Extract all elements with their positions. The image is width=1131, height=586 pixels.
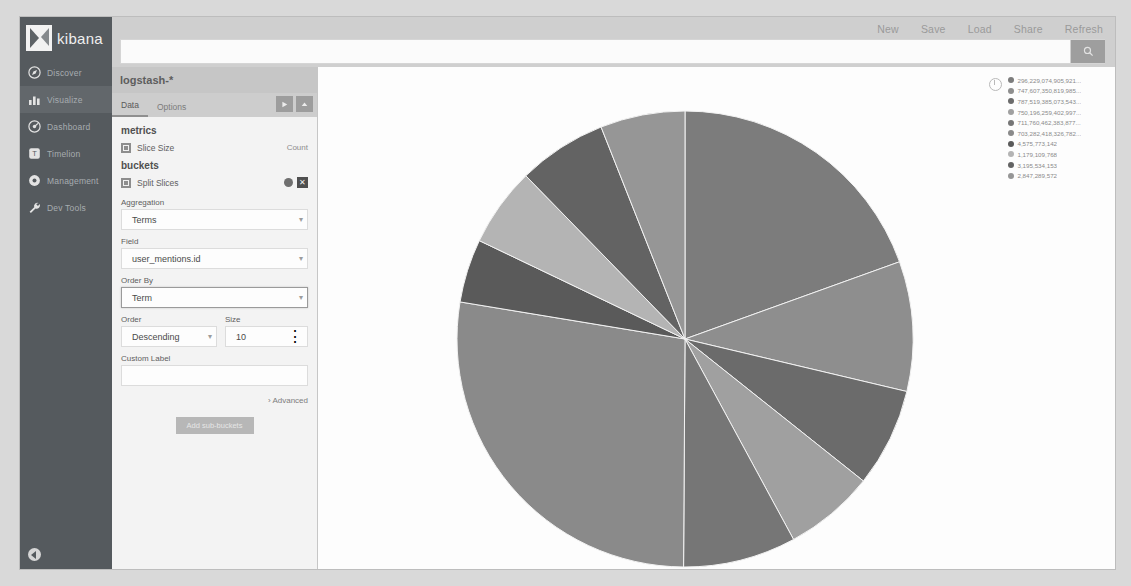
size-input[interactable] <box>234 331 287 343</box>
legend-item[interactable]: 2,847,289,572 <box>1008 170 1081 181</box>
field-value: user_mentions.id <box>132 254 299 264</box>
chevron-down-icon: ▾ <box>299 293 303 302</box>
order-by-value: Term <box>132 293 299 303</box>
share-button[interactable]: Share <box>1014 23 1043 35</box>
close-icon[interactable]: ✕ <box>297 177 308 188</box>
sidebar: kibana DiscoverVisualizeDashboardTTimeli… <box>20 17 112 569</box>
legend-item[interactable]: 750,196,259,402,997... <box>1008 107 1081 118</box>
custom-label-field[interactable] <box>121 365 308 386</box>
size-stepper[interactable]: ⋮ <box>225 326 308 347</box>
sidebar-item-label: Management <box>47 176 99 186</box>
legend-item[interactable]: 711,760,462,383,877... <box>1008 117 1081 128</box>
compass-icon <box>28 66 41 79</box>
index-pattern-header: logstash-* <box>112 67 317 93</box>
sidebar-collapse-button[interactable] <box>28 548 41 561</box>
bucket-split-slices-row[interactable]: Split Slices ✕ <box>121 174 308 191</box>
kibana-app: NewSaveLoadShareRefresh kibana DiscoverV… <box>20 17 1115 569</box>
sidebar-item-visualize[interactable]: Visualize <box>20 86 112 113</box>
chevron-down-icon: ▾ <box>299 254 303 263</box>
legend-label: 4,575,773,142 <box>1017 140 1057 147</box>
collapse-editor-button[interactable] <box>296 96 313 112</box>
apply-changes-button[interactable] <box>276 96 293 112</box>
legend-label: 2,847,289,572 <box>1017 172 1057 179</box>
custom-label-label: Custom Label <box>121 354 308 363</box>
sidebar-item-timelion[interactable]: TTimelion <box>20 140 112 167</box>
top-nav: NewSaveLoadShareRefresh <box>877 23 1103 35</box>
index-pattern-label: logstash-* <box>120 74 173 86</box>
legend-label: 296,229,074,905,921... <box>1017 77 1081 84</box>
legend-items: 296,229,074,905,921...747,607,350,819,98… <box>1008 75 1081 181</box>
stepper-icon: ⋮ <box>287 327 303 346</box>
eye-icon[interactable] <box>284 178 293 187</box>
chart-legend: 296,229,074,905,921...747,607,350,819,98… <box>989 75 1109 181</box>
metric-label: Slice Size <box>137 143 287 153</box>
refresh-button[interactable]: Refresh <box>1065 23 1103 35</box>
legend-label: 787,519,385,073,543... <box>1017 98 1081 105</box>
legend-item[interactable]: 747,607,350,819,985... <box>1008 86 1081 97</box>
add-sub-buckets-button[interactable]: Add sub-buckets <box>176 417 254 434</box>
chevron-down-icon: ▾ <box>208 332 212 341</box>
sidebar-item-discover[interactable]: Discover <box>20 59 112 86</box>
aggregation-value: Terms <box>132 215 299 225</box>
wrench-icon <box>28 201 41 214</box>
legend-item[interactable]: 3,195,534,153 <box>1008 160 1081 171</box>
save-button[interactable]: Save <box>921 23 946 35</box>
load-button[interactable]: Load <box>968 23 992 35</box>
legend-color-swatch <box>1008 151 1014 157</box>
legend-item[interactable]: 787,519,385,073,543... <box>1008 96 1081 107</box>
order-by-select[interactable]: Term ▾ <box>121 287 308 308</box>
legend-label: 747,607,350,819,985... <box>1017 87 1081 94</box>
sidebar-item-label: Dev Tools <box>47 203 86 213</box>
sidebar-item-dashboard[interactable]: Dashboard <box>20 113 112 140</box>
legend-item[interactable]: 296,229,074,905,921... <box>1008 75 1081 86</box>
legend-color-swatch <box>1008 141 1014 147</box>
order-by-label: Order By <box>121 276 308 285</box>
legend-item[interactable]: 4,575,773,142 <box>1008 139 1081 150</box>
bucket-toggle-icon <box>121 178 131 188</box>
legend-color-swatch <box>1008 77 1014 83</box>
bar-chart-icon <box>28 93 41 106</box>
query-bar[interactable] <box>120 39 1105 64</box>
legend-item[interactable]: 703,282,418,326,782... <box>1008 128 1081 139</box>
aggregation-label: Aggregation <box>121 198 308 207</box>
legend-label: 711,760,462,383,877... <box>1017 119 1080 126</box>
advanced-label: Advanced <box>272 396 308 405</box>
legend-label: 1,179,109,768 <box>1017 151 1057 158</box>
metric-slice-size-row[interactable]: Slice Size Count <box>121 139 308 156</box>
svg-text:T: T <box>32 149 37 158</box>
search-button[interactable] <box>1070 40 1105 63</box>
legend-item[interactable]: 1,179,109,768 <box>1008 149 1081 160</box>
new-button[interactable]: New <box>877 23 899 35</box>
field-label: Field <box>121 237 308 246</box>
legend-toggle-icon[interactable] <box>989 78 1002 91</box>
visualization-editor-panel: logstash-* Data Options <box>112 67 318 569</box>
legend-color-swatch <box>1008 98 1014 104</box>
search-input[interactable] <box>121 45 1070 58</box>
legend-label: 3,195,534,153 <box>1017 162 1057 169</box>
field-select[interactable]: user_mentions.id ▾ <box>121 248 308 269</box>
tab-options[interactable]: Options <box>148 99 195 117</box>
buckets-section-title: buckets <box>121 160 308 171</box>
aggregation-select[interactable]: Terms ▾ <box>121 209 308 230</box>
legend-color-swatch <box>1008 130 1014 136</box>
pie-slice[interactable] <box>457 302 685 567</box>
order-label: Order <box>121 315 217 324</box>
advanced-toggle[interactable]: › Advanced <box>121 396 308 405</box>
sidebar-item-label: Timelion <box>47 149 80 159</box>
legend-label: 703,282,418,326,782... <box>1017 130 1081 137</box>
editor-tab-actions <box>276 96 313 112</box>
sidebar-item-dev-tools[interactable]: Dev Tools <box>20 194 112 221</box>
tab-data[interactable]: Data <box>112 97 148 117</box>
order-select[interactable]: Descending ▾ <box>121 326 217 347</box>
custom-label-input[interactable] <box>122 368 307 387</box>
legend-label: 750,196,259,402,997... <box>1017 109 1081 116</box>
kibana-logo: kibana <box>20 17 112 59</box>
metric-value: Count <box>287 143 308 152</box>
dashboard-icon <box>28 120 41 133</box>
bucket-actions: ✕ <box>284 177 308 188</box>
legend-color-swatch <box>1008 120 1014 126</box>
sidebar-item-management[interactable]: Management <box>20 167 112 194</box>
caret-up-icon <box>301 101 308 108</box>
kibana-mark-icon <box>26 25 52 51</box>
play-icon <box>281 101 288 108</box>
